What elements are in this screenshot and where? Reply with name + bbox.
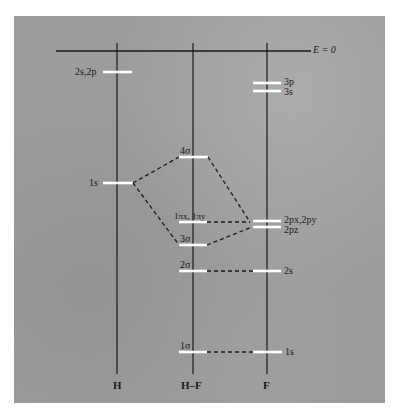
mo-diagram-lines <box>0 0 398 416</box>
label-hf-4sigma: 4σ <box>180 146 190 156</box>
column-label-f: F <box>263 380 270 390</box>
label-f-3s: 3s <box>284 87 293 97</box>
label-f-2pz: 2pz <box>284 225 298 235</box>
label-hf-2sigma: 2σ <box>180 260 190 270</box>
label-f-2s: 2s <box>284 266 293 276</box>
label-hf-1sigma: 1σ <box>180 341 190 351</box>
label-hf-1pi: 1πx, 1πy <box>174 211 206 221</box>
label-h-1s: 1s <box>89 178 98 188</box>
energy-zero-label: E = 0 <box>313 45 336 55</box>
label-hf-3sigma: 3σ <box>180 234 190 244</box>
column-label-hf: H–F <box>181 380 202 390</box>
label-f-1s: 1s <box>285 347 294 357</box>
label-h-2s2p: 2s,2p <box>75 67 96 77</box>
column-label-h: H <box>113 380 122 390</box>
